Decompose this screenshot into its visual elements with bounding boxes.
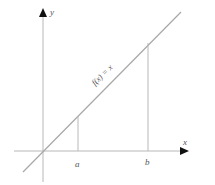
function-line: [23, 12, 181, 172]
x-axis-label: x: [182, 137, 187, 147]
x-axis-arrow-icon: [180, 147, 189, 155]
y-axis-arrow-icon: [39, 8, 47, 17]
marker-label-b: b: [145, 157, 150, 167]
marker-label-a: a: [75, 159, 80, 169]
y-axis-label: y: [49, 7, 54, 17]
identity-function-diagram: y x a b f(x) = x: [0, 0, 215, 185]
